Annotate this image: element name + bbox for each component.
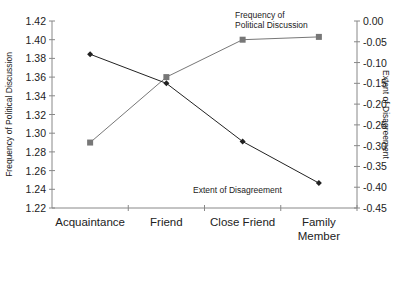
left-tick-label: 1.28 bbox=[26, 146, 47, 158]
right-tick-label: -0.40 bbox=[363, 181, 387, 193]
square-marker bbox=[240, 37, 246, 43]
x-tick-label: Close Friend bbox=[210, 216, 275, 228]
left-tick-label: 1.36 bbox=[26, 71, 47, 83]
left-tick-label: 1.40 bbox=[26, 34, 47, 46]
left-tick-label: 1.34 bbox=[26, 90, 47, 102]
left-tick-label: 1.32 bbox=[26, 109, 47, 121]
series-line bbox=[90, 54, 319, 183]
square-marker bbox=[316, 34, 322, 40]
left-tick-label: 1.38 bbox=[26, 52, 47, 64]
square-marker bbox=[87, 140, 93, 146]
diamond-marker bbox=[87, 51, 93, 57]
series-label-frequency: Political Discussion bbox=[235, 20, 308, 30]
diamond-marker bbox=[316, 180, 322, 186]
left-tick-label: 1.42 bbox=[26, 15, 47, 27]
left-axis-title: Frequency of Political Discussion bbox=[4, 52, 14, 177]
series-line bbox=[90, 37, 319, 143]
x-tick-label: Friend bbox=[150, 216, 183, 228]
right-tick-label: -0.45 bbox=[363, 202, 387, 214]
right-tick-label: -0.35 bbox=[363, 160, 387, 172]
square-marker bbox=[163, 74, 169, 80]
left-tick-label: 1.30 bbox=[26, 127, 47, 139]
x-tick-label: Family bbox=[302, 216, 336, 228]
chart-canvas: 1.421.401.381.361.341.321.301.281.261.24… bbox=[0, 0, 395, 281]
series-label-frequency: Frequency of bbox=[235, 10, 285, 20]
x-tick-label: Member bbox=[298, 230, 340, 242]
x-tick-label: Acquaintance bbox=[55, 216, 125, 228]
right-axis-title: Extent of Disagreement bbox=[381, 70, 391, 159]
line-chart: 1.421.401.381.361.341.321.301.281.261.24… bbox=[0, 0, 395, 281]
left-tick-label: 1.24 bbox=[26, 183, 47, 195]
series-label-disagreement: Extent of Disagreement bbox=[193, 185, 282, 195]
right-tick-label: 0.00 bbox=[363, 15, 384, 27]
left-tick-label: 1.22 bbox=[26, 202, 47, 214]
right-tick-label: -0.05 bbox=[363, 36, 387, 48]
right-tick-label: -0.10 bbox=[363, 57, 387, 69]
left-tick-label: 1.26 bbox=[26, 165, 47, 177]
